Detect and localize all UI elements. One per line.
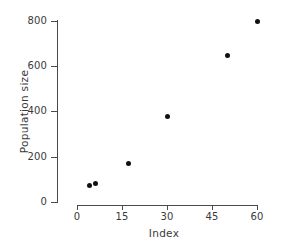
y-axis-tick-label: 0 <box>41 197 47 207</box>
y-axis-tick <box>51 21 57 22</box>
data-point <box>225 53 230 58</box>
y-axis-line <box>57 20 58 203</box>
x-axis-tick-label: 0 <box>62 212 92 222</box>
y-axis-tick <box>51 202 57 203</box>
x-axis-tick <box>167 205 168 210</box>
y-axis-tick-label: 600 <box>28 61 47 71</box>
data-point <box>255 19 260 24</box>
data-point <box>165 114 170 119</box>
y-axis-tick <box>51 111 57 112</box>
x-axis-tick-label: 45 <box>197 212 227 222</box>
data-point <box>87 183 92 188</box>
x-axis-title: Index <box>0 228 288 239</box>
y-axis-title: Population size <box>19 42 30 182</box>
x-axis-tick-label: 15 <box>107 212 137 222</box>
x-axis-tick <box>212 205 213 210</box>
y-axis-tick-label: 200 <box>28 152 47 162</box>
data-point <box>93 181 98 186</box>
y-axis-tick-label: 400 <box>28 106 47 116</box>
x-axis-tick <box>257 205 258 210</box>
data-point <box>126 161 131 166</box>
y-axis-tick <box>51 66 57 67</box>
x-axis-tick <box>122 205 123 210</box>
y-axis-tick-label: 800 <box>28 16 47 26</box>
scatter-plot: 0 200 400 600 800 0 15 30 45 60 Index Po… <box>0 0 288 250</box>
x-axis-tick-label: 60 <box>242 212 272 222</box>
x-axis-tick-label: 30 <box>152 212 182 222</box>
x-axis-tick <box>77 205 78 210</box>
y-axis-tick <box>51 157 57 158</box>
